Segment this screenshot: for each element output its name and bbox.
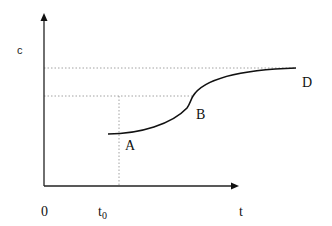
y-axis-arrow-icon	[41, 13, 48, 21]
concentration-curve	[108, 68, 296, 134]
t0-tick-subscript: 0	[102, 210, 107, 221]
concentration-time-diagram: c A B D 0 t0 t	[0, 0, 332, 226]
t0-tick-label: t0	[98, 204, 107, 221]
y-axis-label: c	[17, 44, 23, 56]
x-axis-arrow-icon	[231, 183, 239, 190]
point-label-a: A	[125, 138, 136, 153]
point-label-d: D	[302, 75, 312, 90]
origin-label: 0	[41, 204, 48, 219]
point-label-b: B	[196, 107, 205, 122]
x-axis-label: t	[239, 204, 243, 219]
